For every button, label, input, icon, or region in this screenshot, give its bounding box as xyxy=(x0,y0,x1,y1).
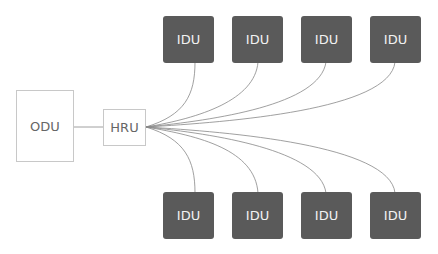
link-idu-bottom-1 xyxy=(146,127,195,193)
idu-label: IDU xyxy=(177,208,200,223)
odu-node: ODU xyxy=(16,90,74,162)
idu-bottom-2: IDU xyxy=(232,192,283,239)
idu-label: IDU xyxy=(177,32,200,47)
idu-label: IDU xyxy=(246,32,269,47)
link-idu-top-2 xyxy=(146,62,258,127)
idu-top-1: IDU xyxy=(163,16,214,63)
idu-top-4: IDU xyxy=(370,16,421,63)
link-idu-bottom-2 xyxy=(146,127,258,193)
link-idu-top-1 xyxy=(146,62,195,127)
idu-label: IDU xyxy=(246,208,269,223)
hru-node: HRU xyxy=(103,109,146,146)
idu-label: IDU xyxy=(384,32,407,47)
link-idu-bottom-3 xyxy=(146,127,326,193)
hru-label: HRU xyxy=(110,120,138,135)
idu-bottom-3: IDU xyxy=(301,192,352,239)
idu-bottom-4: IDU xyxy=(370,192,421,239)
idu-label: IDU xyxy=(315,208,338,223)
link-idu-top-3 xyxy=(146,62,326,127)
link-idu-top-4 xyxy=(146,62,395,127)
link-idu-bottom-4 xyxy=(146,127,395,193)
idu-top-2: IDU xyxy=(232,16,283,63)
idu-bottom-1: IDU xyxy=(163,192,214,239)
idu-label: IDU xyxy=(384,208,407,223)
idu-top-3: IDU xyxy=(301,16,352,63)
idu-label: IDU xyxy=(315,32,338,47)
odu-label: ODU xyxy=(30,119,60,134)
